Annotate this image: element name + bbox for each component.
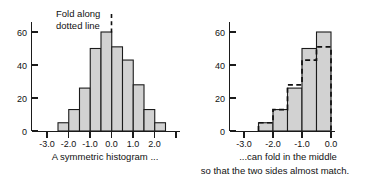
- histogram-bar: [155, 123, 166, 131]
- x-tick-labels: -3.0 -2.0 -1.0 0.0 1.0 2.0: [39, 139, 161, 149]
- right-caption-line1: ...can fold in the middle: [239, 151, 337, 162]
- y-tick-labels: 60 40 20 0: [215, 28, 225, 137]
- chart-symmetric-histogram: 60 40 20 0 -3.0 -2.0 -1.0 0.0 1.0: [0, 0, 183, 185]
- x-tick-label: 0.0: [325, 139, 338, 149]
- x-tick-label: -3.0: [39, 139, 55, 149]
- y-tick-label: 40: [17, 61, 27, 71]
- symmetric-histogram-svg: 60 40 20 0 -3.0 -2.0 -1.0 0.0 1.0: [0, 0, 183, 185]
- x-tick-label: 0.0: [105, 139, 118, 149]
- histogram-bar: [69, 110, 80, 131]
- y-tick-label: 60: [17, 28, 27, 38]
- x-ticks: [244, 132, 331, 138]
- fold-annotation-line2: dotted line: [56, 20, 100, 31]
- y-tick-label: 60: [215, 28, 225, 38]
- left-caption: A symmetric histogram ...: [52, 151, 159, 162]
- folded-bar-solid: [259, 123, 274, 131]
- folded-bar-solid: [273, 110, 288, 131]
- x-tick-label: 1.0: [127, 139, 140, 149]
- x-tick-label: -3.0: [236, 139, 252, 149]
- fold-annotation: Fold along dotted line: [56, 8, 100, 31]
- fold-annotation-line1: Fold along: [56, 8, 100, 19]
- x-tick-labels: -3.0 -2.0 -1.0 0.0: [236, 139, 337, 149]
- x-tick-label: -1.0: [294, 139, 310, 149]
- x-ticks: [47, 132, 176, 138]
- y-ticks: [32, 32, 38, 131]
- histogram-bar: [80, 88, 91, 131]
- folded-bar-solid: [288, 88, 303, 131]
- histogram-bar: [123, 60, 134, 131]
- chart-folded-histogram: 60 40 20 0 -3.0 -2.0 -1.0 0.0: [183, 0, 366, 185]
- y-tick-label: 20: [17, 94, 27, 104]
- histogram-bars: [58, 32, 166, 131]
- histogram-bar: [90, 49, 101, 132]
- x-tick-label: -2.0: [61, 139, 77, 149]
- x-tick-label: -1.0: [82, 139, 98, 149]
- histogram-bar: [133, 85, 144, 131]
- x-tick-label: 2.0: [148, 139, 161, 149]
- y-tick-label: 0: [220, 127, 225, 137]
- folded-histogram-svg: 60 40 20 0 -3.0 -2.0 -1.0 0.0: [183, 0, 366, 185]
- y-tick-label: 20: [215, 94, 225, 104]
- right-caption-line2: so that the two sides almost match.: [201, 165, 349, 176]
- y-ticks: [230, 32, 236, 131]
- y-tick-labels: 60 40 20 0: [17, 28, 27, 137]
- x-tick-label: -2.0: [265, 139, 281, 149]
- right-captions: ...can fold in the middle so that the tw…: [201, 151, 349, 176]
- histogram-bar: [58, 123, 69, 131]
- histogram-bar: [144, 110, 155, 131]
- histogram-bar: [101, 32, 112, 131]
- y-tick-label: 40: [215, 61, 225, 71]
- figure-container: 60 40 20 0 -3.0 -2.0 -1.0 0.0 1.0: [0, 0, 366, 185]
- histogram-bar: [112, 47, 123, 131]
- y-tick-label: 0: [22, 127, 27, 137]
